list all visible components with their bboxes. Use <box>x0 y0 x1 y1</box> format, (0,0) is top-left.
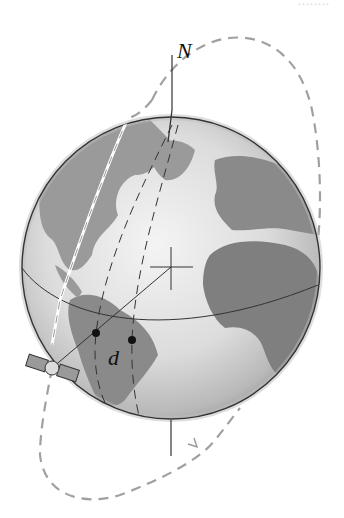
equator-point <box>128 336 136 344</box>
subsatellite-point <box>92 329 100 337</box>
distance-label: d <box>108 345 119 371</box>
earth-satellite-diagram <box>0 0 344 518</box>
orbit-direction-arrow-icon <box>188 438 197 447</box>
orbit-path-upper-front <box>128 100 152 118</box>
north-label: N <box>177 38 192 64</box>
cropped-caption-text: ........ <box>298 0 330 9</box>
